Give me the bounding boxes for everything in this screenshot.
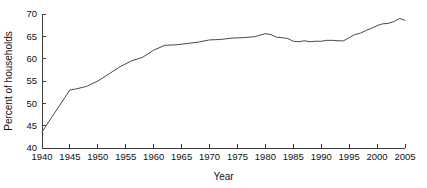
line-chart: 40455055606570 1940194519501955196019651… xyxy=(0,0,427,188)
y-tick-label: 55 xyxy=(26,75,37,86)
x-tick-label: 1970 xyxy=(199,151,220,162)
y-tick-label: 45 xyxy=(26,120,37,131)
chart-figure: 40455055606570 1940194519501955196019651… xyxy=(0,0,427,188)
y-tick-label: 65 xyxy=(26,31,37,42)
x-tick-label: 1955 xyxy=(115,151,136,162)
x-axis-ticks: 1940194519501955196019651970197519801985… xyxy=(31,144,415,162)
x-axis-title: Year xyxy=(213,171,234,182)
x-tick-label: 1960 xyxy=(143,151,164,162)
x-tick-label: 1980 xyxy=(255,151,276,162)
y-tick-label: 50 xyxy=(26,98,37,109)
data-series-line xyxy=(42,18,405,131)
x-tick-label: 1950 xyxy=(87,151,108,162)
y-tick-label: 70 xyxy=(26,8,37,19)
x-tick-label: 2000 xyxy=(367,151,388,162)
y-tick-label: 60 xyxy=(26,53,37,64)
y-axis-title: Percent of households xyxy=(3,31,14,131)
x-tick-label: 1940 xyxy=(31,151,52,162)
x-tick-label: 1945 xyxy=(59,151,80,162)
x-tick-label: 1995 xyxy=(339,151,360,162)
x-tick-label: 1985 xyxy=(283,151,304,162)
x-tick-label: 2005 xyxy=(394,151,415,162)
y-axis-ticks: 40455055606570 xyxy=(26,8,46,153)
x-tick-label: 1975 xyxy=(227,151,248,162)
x-tick-label: 1965 xyxy=(171,151,192,162)
x-tick-label: 1990 xyxy=(311,151,332,162)
